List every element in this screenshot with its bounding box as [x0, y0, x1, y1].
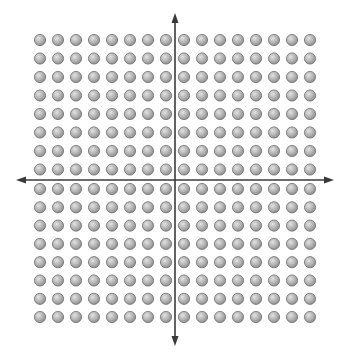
dot: [268, 34, 279, 45]
dot: [34, 108, 45, 119]
dot: [70, 275, 81, 286]
dot: [34, 34, 45, 45]
dot: [88, 275, 99, 286]
dot: [232, 34, 243, 45]
dot: [106, 53, 117, 64]
dot: [88, 202, 99, 213]
dot: [304, 90, 315, 101]
dot: [160, 90, 171, 101]
dot: [214, 311, 225, 322]
dot: [124, 202, 135, 213]
dot: [70, 108, 81, 119]
dot: [304, 202, 315, 213]
dot: [70, 127, 81, 138]
dot: [250, 275, 261, 286]
dot: [232, 183, 243, 194]
dot: [268, 127, 279, 138]
dot: [232, 108, 243, 119]
dot: [88, 90, 99, 101]
dot: [232, 257, 243, 268]
dot: [286, 71, 297, 82]
dot: [124, 53, 135, 64]
dot: [268, 257, 279, 268]
dot: [268, 71, 279, 82]
dot: [268, 311, 279, 322]
dot: [88, 53, 99, 64]
dot: [160, 164, 171, 175]
dot: [178, 145, 189, 156]
dot: [52, 183, 63, 194]
dot: [250, 257, 261, 268]
dot: [232, 71, 243, 82]
dot: [232, 238, 243, 249]
dot: [286, 293, 297, 304]
dot: [250, 220, 261, 231]
dot: [178, 220, 189, 231]
dot: [196, 34, 207, 45]
dot: [196, 220, 207, 231]
dot: [160, 71, 171, 82]
dot: [214, 108, 225, 119]
dot: [34, 53, 45, 64]
dot: [196, 108, 207, 119]
dot: [142, 53, 153, 64]
dot: [160, 293, 171, 304]
dot: [250, 183, 261, 194]
dot: [286, 238, 297, 249]
dot: [268, 164, 279, 175]
dot: [34, 220, 45, 231]
dot: [34, 145, 45, 156]
dot: [304, 183, 315, 194]
dot: [142, 293, 153, 304]
dot: [286, 275, 297, 286]
dot: [304, 238, 315, 249]
dot: [268, 108, 279, 119]
dot: [178, 238, 189, 249]
dot: [196, 90, 207, 101]
dot: [142, 311, 153, 322]
dot: [106, 183, 117, 194]
dot: [250, 164, 261, 175]
dot: [232, 53, 243, 64]
dot: [286, 53, 297, 64]
dot: [124, 220, 135, 231]
dot: [52, 311, 63, 322]
dot: [88, 108, 99, 119]
dot: [286, 164, 297, 175]
dot: [304, 127, 315, 138]
dot: [214, 275, 225, 286]
dot: [286, 257, 297, 268]
dot: [214, 53, 225, 64]
dot: [70, 257, 81, 268]
dot: [88, 164, 99, 175]
dot: [286, 127, 297, 138]
dot: [52, 53, 63, 64]
dot: [160, 275, 171, 286]
dot: [160, 238, 171, 249]
dot: [196, 183, 207, 194]
dot: [142, 275, 153, 286]
dot: [124, 34, 135, 45]
dot: [268, 53, 279, 64]
dot: [106, 257, 117, 268]
dot: [268, 183, 279, 194]
dot: [304, 53, 315, 64]
dot: [160, 127, 171, 138]
dot: [178, 257, 189, 268]
dot: [34, 71, 45, 82]
dot: [304, 108, 315, 119]
dot: [196, 53, 207, 64]
dot: [106, 275, 117, 286]
dot: [304, 145, 315, 156]
dot: [196, 164, 207, 175]
dot: [88, 311, 99, 322]
dot: [124, 238, 135, 249]
dot: [106, 145, 117, 156]
dot: [142, 238, 153, 249]
dot: [232, 293, 243, 304]
dot: [106, 220, 117, 231]
dot: [52, 275, 63, 286]
dot: [196, 145, 207, 156]
dot: [178, 90, 189, 101]
dot: [196, 238, 207, 249]
